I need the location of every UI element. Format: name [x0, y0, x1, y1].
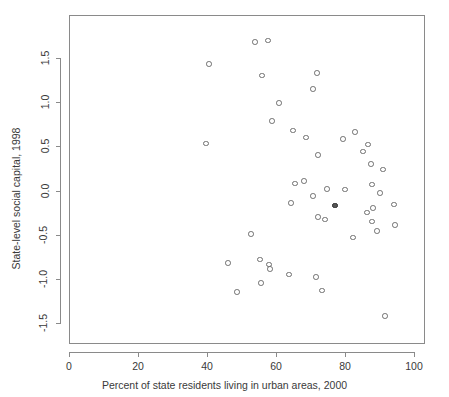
plot-panel [69, 15, 425, 344]
x-tick-mark [414, 352, 415, 357]
x-tick-mark [69, 352, 70, 357]
y-tick-label: 1.5 [39, 51, 51, 66]
x-tick-label: 0 [66, 360, 72, 372]
y-tick-label: 0.0 [39, 183, 51, 198]
y-tick-mark [56, 279, 61, 280]
x-tick-mark [276, 352, 277, 357]
y-tick-label: -0.5 [37, 226, 49, 244]
y-tick-mark [56, 235, 61, 236]
y-tick-label: -1.5 [37, 314, 49, 332]
x-tick-mark [138, 352, 139, 357]
x-axis-line [69, 352, 414, 353]
y-tick-mark [56, 191, 61, 192]
x-tick-label: 100 [405, 360, 423, 372]
y-tick-label: -1.0 [37, 270, 49, 288]
x-tick-label: 60 [270, 360, 282, 372]
x-tick-mark [207, 352, 208, 357]
y-tick-mark [56, 102, 61, 103]
y-tick-mark [56, 323, 61, 324]
y-tick-label: 0.5 [39, 139, 51, 154]
y-tick-label: 1.0 [39, 95, 51, 110]
x-axis-title: Percent of state residents living in urb… [0, 379, 449, 391]
x-tick-label: 40 [201, 360, 213, 372]
scatter-plot-figure: 020406080100 1.51.00.50.0-0.5-1.0-1.5 Pe… [0, 0, 449, 397]
x-tick-mark [345, 352, 346, 357]
y-tick-mark [56, 58, 61, 59]
y-axis-title: State-level social capital, 1998 [8, 0, 24, 397]
x-tick-label: 20 [132, 360, 144, 372]
x-tick-label: 80 [339, 360, 351, 372]
y-tick-mark [56, 146, 61, 147]
